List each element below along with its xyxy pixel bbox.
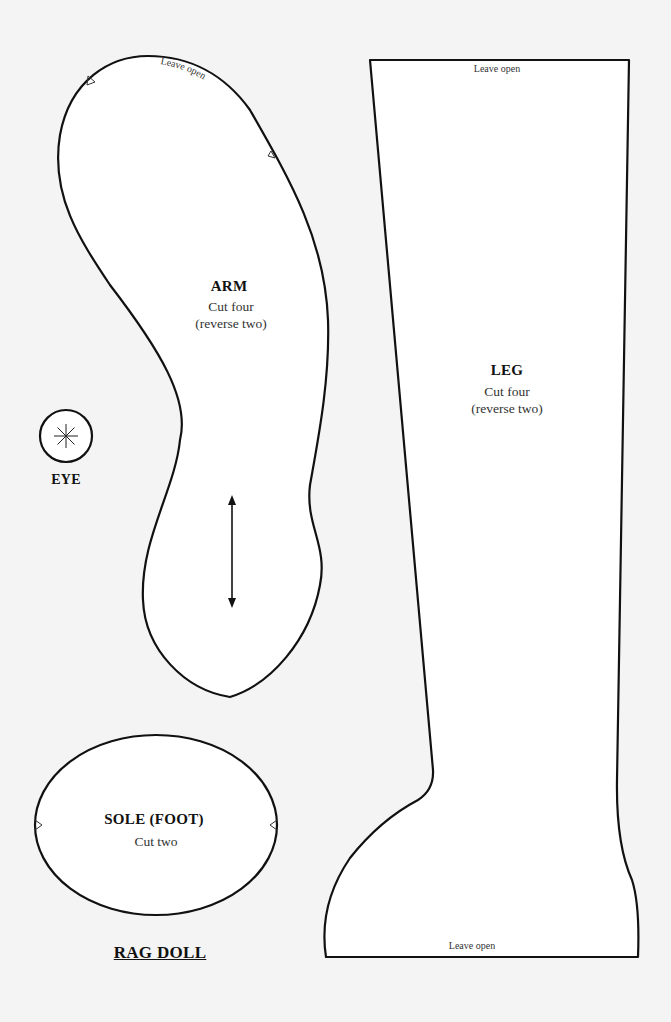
- asterisk-icon: [54, 424, 78, 448]
- arm-pattern-piece: [58, 56, 328, 697]
- leg-cut-instruction: Cut four: [484, 383, 529, 400]
- eye-title: EYE: [51, 472, 81, 488]
- eye-pattern-piece: [40, 410, 92, 462]
- leg-title: LEG: [491, 362, 524, 379]
- leg-pattern-piece: [324, 60, 638, 957]
- leg-reverse-note: (reverse two): [471, 400, 543, 417]
- arm-reverse-note: (reverse two): [195, 315, 267, 332]
- arm-title: ARM: [211, 278, 248, 295]
- sheet-title: RAG DOLL: [114, 943, 207, 963]
- arm-cut-instruction: Cut four: [208, 298, 253, 315]
- leg-top-opening-label: Leave open: [474, 63, 520, 74]
- sole-cut-instruction: Cut two: [134, 833, 177, 850]
- leg-bottom-opening-label: Leave open: [449, 940, 495, 951]
- pattern-sheet: Leave open: [0, 0, 671, 1022]
- sole-title: SOLE (FOOT): [104, 811, 204, 828]
